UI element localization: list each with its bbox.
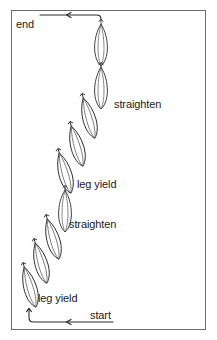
horse-figure-2: [95, 62, 108, 109]
diagram-canvas: [0, 0, 217, 340]
leg-yield-upper-label: leg yield: [77, 179, 116, 190]
straighten-lower-label: straighten: [69, 219, 116, 230]
leg-yield-lower-label: leg yield: [38, 293, 77, 304]
horse-figure-1: [95, 19, 108, 66]
end-flow-arrow: [40, 12, 101, 20]
straighten-upper-label: straighten: [114, 99, 161, 110]
end-label: end: [16, 19, 34, 30]
start-label: start: [90, 310, 111, 321]
leg-yield-diagram-figure: end straighten leg yield straighten leg …: [0, 0, 217, 340]
